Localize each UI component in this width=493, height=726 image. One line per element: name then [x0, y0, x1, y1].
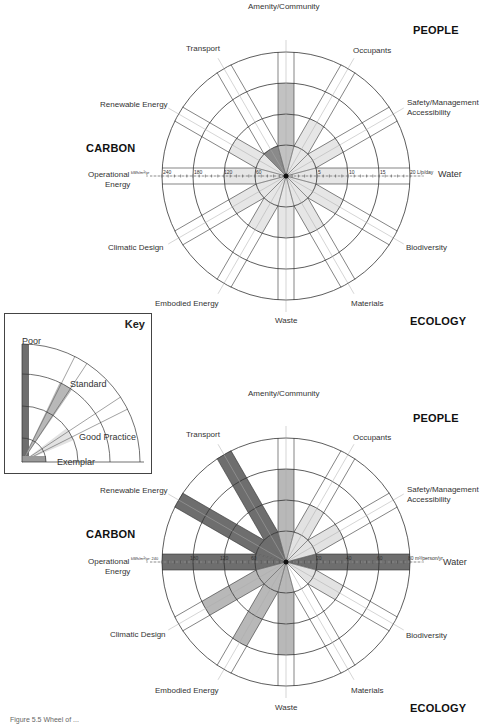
label-embodied-2: Embodied Energy: [155, 686, 219, 695]
group-ecology-1: ECOLOGY: [410, 315, 466, 327]
key-good-practice: Good Practice: [79, 432, 136, 442]
label-renewable-1: Renewable Energy: [100, 100, 168, 109]
label-amenity-1: Amenity/Community: [248, 2, 320, 11]
w-tick-20-2: 20: [316, 554, 322, 563]
label-accessibility-1: Accessibility: [407, 108, 451, 117]
w-unit-1: 20 L/p/day: [410, 168, 433, 177]
w-tick-10-1: 10: [349, 168, 355, 177]
group-carbon-2: CARBON: [86, 528, 135, 540]
w-tick-40-2: 40: [346, 554, 352, 563]
key-poor: Poor: [22, 336, 41, 346]
w-unit-2: 80 m³/person/yr: [408, 554, 443, 563]
label-operational-2: Operational: [88, 557, 129, 566]
label-amenity-2: Amenity/Community: [248, 389, 320, 398]
label-materials-1: Materials: [351, 299, 383, 308]
label-renewable-2: Renewable Energy: [100, 486, 168, 495]
oe-tick-120-1: 120: [224, 168, 232, 177]
label-operational-energy-1: Energy: [105, 180, 130, 189]
label-materials-2: Materials: [351, 686, 383, 695]
label-transport-2: Transport: [186, 430, 220, 439]
label-transport-1: Transport: [186, 44, 220, 53]
key-standard: Standard: [70, 379, 107, 389]
oe-tick-120-2: 120: [220, 554, 228, 563]
oe-unit-2: kWh/m²/yr: 240: [131, 554, 158, 563]
w-tick-5-1: 5: [318, 168, 321, 177]
oe-tick-180-1: 180: [194, 168, 202, 177]
key-title: Key: [125, 318, 145, 330]
oe-tick-60-1: 60: [256, 168, 262, 177]
oe-unit-1: kWh/m²/yr: [131, 168, 149, 177]
key-exemplar: Exemplar: [57, 457, 95, 467]
label-safety-1: Safety/Management: [407, 98, 479, 107]
label-occupants-1: Occupants: [353, 46, 391, 55]
label-safety-2: Safety/Management: [407, 485, 479, 494]
group-people-1: PEOPLE: [413, 24, 459, 36]
group-carbon-1: CARBON: [86, 142, 135, 154]
label-waste-1: Waste: [275, 316, 297, 325]
group-ecology-2: ECOLOGY: [410, 702, 466, 714]
label-embodied-1: Embodied Energy: [155, 299, 219, 308]
label-climatic-2: Climatic Design: [110, 630, 166, 639]
w-tick-60-2: 60: [377, 554, 383, 563]
label-operational-energy-2: Energy: [105, 567, 130, 576]
oe-tick-60-2: 60: [251, 554, 257, 563]
w-tick-15-1: 15: [380, 168, 386, 177]
label-water-1: Water: [438, 170, 462, 179]
label-biodiversity-2: Biodiversity: [406, 631, 447, 640]
label-accessibility-2: Accessibility: [407, 495, 451, 504]
group-people-2: PEOPLE: [413, 412, 459, 424]
label-occupants-2: Occupants: [353, 433, 391, 442]
label-biodiversity-1: Biodiversity: [406, 243, 447, 252]
label-waste-2: Waste: [275, 703, 297, 712]
radial-chart-2: [146, 426, 426, 698]
label-climatic-1: Climatic Design: [108, 243, 164, 252]
oe-tick-240-1: 240: [163, 168, 171, 177]
label-water-2: Water: [443, 558, 467, 567]
figure-caption: Figure 5.5 Wheel of ...: [10, 716, 79, 723]
label-operational-1: Operational: [88, 170, 129, 179]
oe-tick-180-2: 180: [190, 554, 198, 563]
key-legend: Key Poor Standard Good Practice Exemplar: [4, 313, 152, 474]
